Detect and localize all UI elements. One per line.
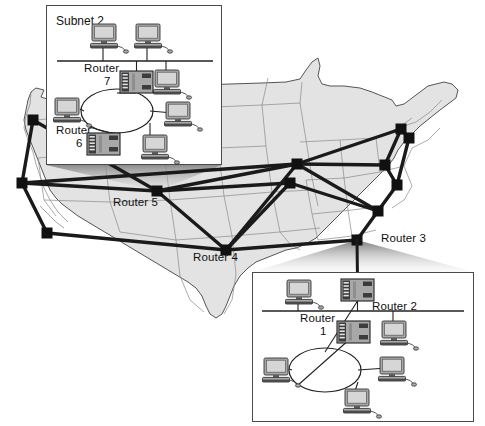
inset-subnet-2: [46, 5, 222, 165]
backbone-link: [22, 120, 33, 183]
label-router-6: Router: [56, 124, 91, 136]
label-router-2: Router 2: [372, 300, 417, 312]
cloud-label-subnet-1: Subnet 1: [285, 363, 365, 375]
label-router-1-num: 1: [320, 325, 327, 337]
label-router-1: Router: [300, 312, 335, 324]
backbone-node[interactable]: [292, 159, 303, 170]
map-label-router-3: Router 3: [381, 232, 426, 244]
backbone-link: [22, 183, 47, 233]
inset-subnet-1: [252, 272, 474, 422]
backbone-link: [47, 233, 226, 250]
backbone-link: [397, 138, 409, 185]
backbone-link: [226, 183, 290, 250]
network-map-figure: Router 5Router 4Router 3 Subnet 2Router7…: [0, 0, 485, 426]
label-router-6-num: 6: [76, 137, 83, 149]
backbone-link: [157, 191, 226, 250]
backbone-node[interactable]: [28, 115, 39, 126]
backbone-node[interactable]: [42, 228, 53, 239]
backbone-node[interactable]: [392, 180, 403, 191]
backbone-node[interactable]: [404, 133, 415, 144]
backbone-node[interactable]: [380, 160, 391, 171]
inset-title-subnet-2: Subnet 2: [56, 14, 104, 28]
label-router-7: Router: [84, 62, 119, 74]
label-router-7-num: 7: [104, 75, 111, 87]
backbone-node[interactable]: [152, 186, 163, 197]
backbone-link: [226, 240, 357, 250]
backbone-link: [22, 183, 157, 191]
map-label-router-4: Router 4: [193, 251, 238, 263]
map-label-router-5: Router 5: [113, 196, 158, 208]
backbone-node[interactable]: [373, 206, 384, 217]
backbone-link: [297, 129, 401, 164]
backbone-link: [297, 164, 385, 165]
backbone-node[interactable]: [285, 178, 296, 189]
backbone-node[interactable]: [17, 178, 28, 189]
